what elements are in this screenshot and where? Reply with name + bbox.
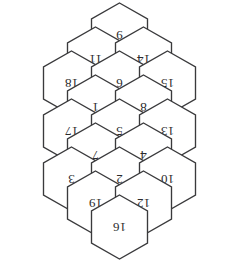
hex-cell-group: 91114186151817513743210191216 (44, 3, 196, 259)
honeycomb-figure: 91114186151817513743210191216 (0, 0, 239, 264)
hex-grid-canvas: 91114186151817513743210191216 (0, 0, 239, 264)
hex-cell-label-16: 16 (113, 220, 127, 235)
